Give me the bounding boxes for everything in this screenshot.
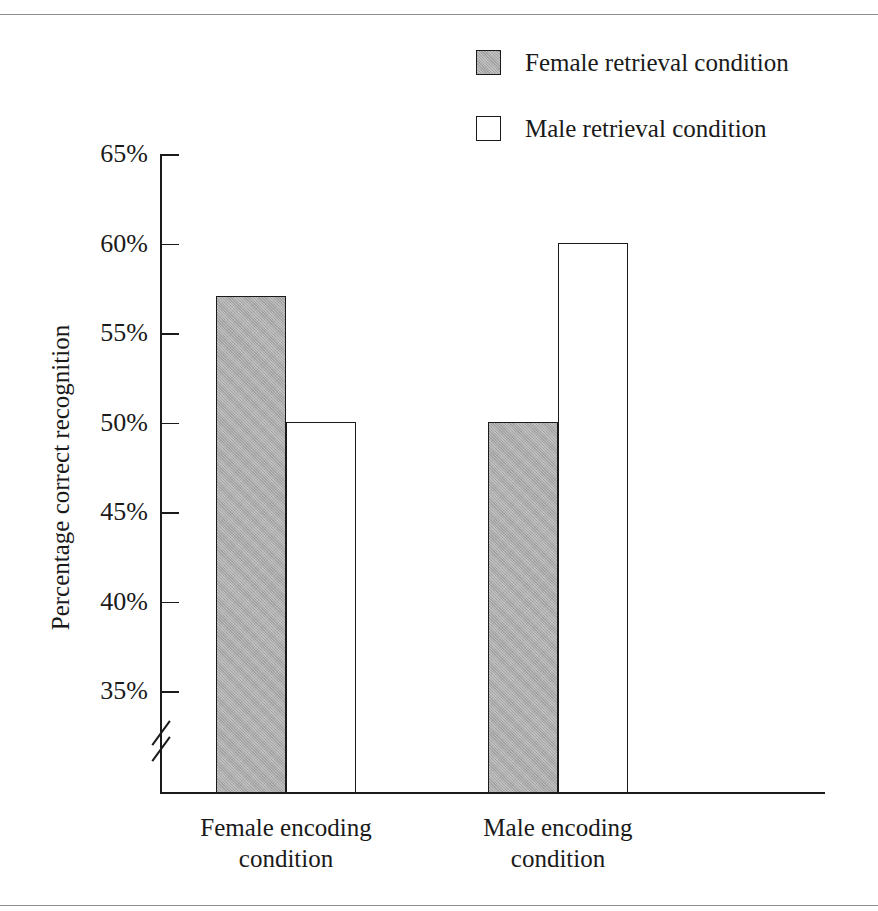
figure-container: Female retrieval condition Male retrieva…: [0, 0, 878, 911]
bar-female-encoding-condition-female-retrieval[interactable]: [216, 296, 286, 793]
bar-series-group: [0, 0, 878, 911]
bar-male-encoding-condition-male-retrieval[interactable]: [558, 243, 628, 793]
plot-area: 65%60%55%50%45%40%35% Percentage correct…: [0, 0, 878, 911]
x-axis-group-labels: Female encodingconditionMale encodingcon…: [0, 812, 878, 892]
bar-male-encoding-condition-female-retrieval[interactable]: [488, 422, 558, 793]
x-axis-group-label-line1: Male encoding: [398, 812, 718, 843]
bar-female-encoding-condition-male-retrieval[interactable]: [286, 422, 356, 793]
x-axis-group-label: Male encodingcondition: [398, 812, 718, 875]
x-axis-group-label-line2: condition: [398, 843, 718, 874]
